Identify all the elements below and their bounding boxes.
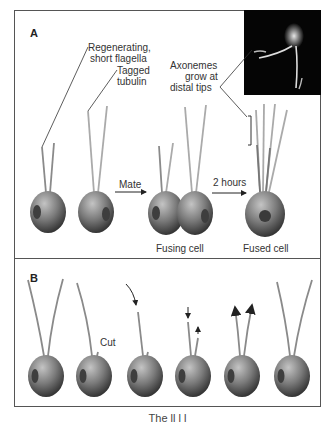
cell-a1: [30, 143, 66, 233]
cell-b4: [175, 307, 211, 397]
cell-b5: [224, 305, 260, 397]
figure-caption: The ll l l: [0, 412, 335, 424]
cell-b1: [28, 279, 64, 397]
leader-lines: [42, 47, 252, 147]
fusing-cell: [148, 105, 213, 235]
cell-a2: [78, 106, 114, 233]
cell-b2: [76, 283, 112, 397]
cell-b3: [126, 284, 163, 397]
cell-b6: [274, 280, 312, 397]
